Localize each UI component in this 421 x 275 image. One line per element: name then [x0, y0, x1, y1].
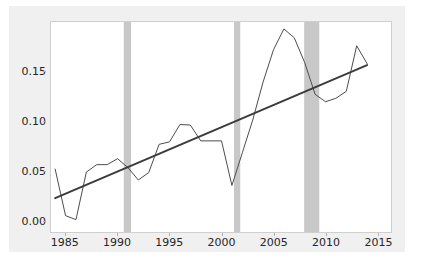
x-tick-label: 1990 [103, 236, 131, 249]
shaded-band-recession-2008-2009 [304, 22, 319, 232]
x-tick-mark [326, 233, 327, 236]
x-tick-label: 2005 [260, 236, 288, 249]
x-tick-label: 2015 [364, 236, 392, 249]
x-tick-mark [274, 233, 275, 236]
y-tick-mark [43, 71, 46, 72]
x-tick-label: 1995 [155, 236, 183, 249]
x-tick-mark [169, 233, 170, 236]
y-axis-tick-labels: 0.000.050.100.15 [0, 21, 46, 233]
series-line-observed [55, 29, 367, 220]
y-tick-label: 0.00 [2, 215, 46, 228]
y-tick-label: 0.05 [2, 165, 46, 178]
x-tick-mark [222, 233, 223, 236]
shaded-band-recession-1990-1991 [124, 22, 131, 232]
y-tick-label: 0.15 [2, 65, 46, 78]
y-tick-label: 0.10 [2, 115, 46, 128]
data-series-group [55, 29, 367, 220]
x-tick-mark [65, 233, 66, 236]
series-line-trend [55, 65, 367, 198]
x-tick-label: 2000 [208, 236, 236, 249]
x-tick-label: 1985 [51, 236, 79, 249]
y-tick-mark [43, 121, 46, 122]
plot-axes-area [50, 21, 392, 233]
y-tick-mark [43, 221, 46, 222]
x-tick-mark [117, 233, 118, 236]
x-tick-mark [378, 233, 379, 236]
shaded-band-recession-2001 [234, 22, 240, 232]
x-axis-tick-labels: 1985199019952000200520102015 [50, 236, 392, 258]
x-tick-label: 2010 [312, 236, 340, 249]
y-tick-mark [43, 171, 46, 172]
plot-canvas [51, 22, 391, 232]
chart-figure: 0.000.050.100.15 19851990199520002005201… [0, 0, 421, 275]
